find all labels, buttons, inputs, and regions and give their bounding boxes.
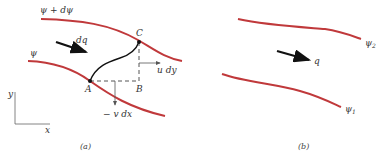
streamline-lower <box>28 61 165 116</box>
label-dq: dq <box>76 35 88 45</box>
label-point-a: A <box>84 84 92 94</box>
xy-axes <box>15 92 50 124</box>
label-q: q <box>314 56 320 66</box>
point-c-dot <box>137 40 141 44</box>
label-minus-v-dx: − v dx <box>103 109 132 119</box>
caption-a: (a) <box>80 142 91 151</box>
label-point-b: B <box>135 84 143 94</box>
axis-label-y: y <box>7 89 14 99</box>
label-psi: ψ <box>30 48 38 58</box>
label-point-c: C <box>136 28 143 38</box>
panel-b: q ψ2 ψ1 (b) <box>222 19 376 151</box>
point-a-dot <box>88 79 92 83</box>
panel-a: ψ + dψ ψ dq C A B u dy − v dx y x (a) <box>7 5 182 151</box>
stream-function-figure: ψ + dψ ψ dq C A B u dy − v dx y x (a) q … <box>0 0 380 155</box>
q-arrow-icon <box>277 51 309 60</box>
streamline-psi1 <box>222 74 341 107</box>
caption-b: (b) <box>298 142 309 151</box>
label-u-dy: u dy <box>157 65 177 75</box>
streamline-psi2 <box>238 19 361 39</box>
axis-label-x: x <box>45 125 50 135</box>
label-psi-plus-dpsi: ψ + dψ <box>40 5 74 15</box>
label-psi1: ψ1 <box>345 104 356 115</box>
label-psi2: ψ2 <box>365 38 376 49</box>
curve-a-to-c <box>90 42 139 81</box>
streamline-upper <box>41 19 182 61</box>
